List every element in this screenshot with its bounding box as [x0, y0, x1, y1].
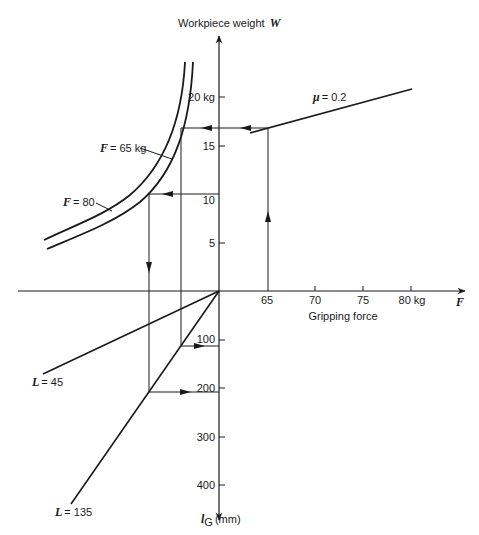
lg-axis: 100 200 300 400 lG(mm) — [197, 291, 241, 528]
f-axis-title: Gripping force — [308, 310, 377, 322]
force-curves: F= 65 kg F= 80 — [44, 62, 193, 249]
lg-tick-400: 400 — [197, 479, 215, 491]
lg-tick-300: 300 — [197, 431, 215, 443]
f-axis: 65 70 75 80 kg F Gripping force — [18, 286, 465, 322]
line-label-l45: L= 45 — [31, 375, 63, 389]
w-tick-20: 20 kg — [188, 91, 215, 103]
f-tick-75: 75 — [357, 294, 369, 306]
w-tick-15: 15 — [203, 140, 215, 152]
f-tick-70: 70 — [309, 294, 321, 306]
lg-tick-100: 100 — [197, 333, 215, 345]
construction-path — [146, 125, 271, 395]
w-tick-10: 10 — [203, 194, 215, 206]
f-tick-65: 65 — [261, 294, 273, 306]
friction-label: μ= 0.2 — [312, 90, 346, 104]
nomogram: Workpiece weight W 20 kg 15 10 5 65 70 7… — [0, 0, 479, 535]
length-lines: L= 45 L= 135 — [31, 291, 219, 519]
w-axis-title: Workpiece weight W — [178, 16, 282, 30]
friction-line: μ= 0.2 — [250, 89, 412, 133]
curve-label-f80: F= 80 — [62, 195, 95, 209]
curve-label-f65: F= 65 kg — [99, 141, 146, 155]
w-axis: Workpiece weight W 20 kg 15 10 5 — [178, 16, 282, 291]
lg-axis-label: lG(mm) — [201, 512, 241, 528]
w-tick-5: 5 — [209, 237, 215, 249]
line-label-l135: L= 135 — [54, 505, 92, 519]
f-axis-symbol: F — [455, 295, 464, 309]
f-tick-80: 80 kg — [399, 294, 426, 306]
